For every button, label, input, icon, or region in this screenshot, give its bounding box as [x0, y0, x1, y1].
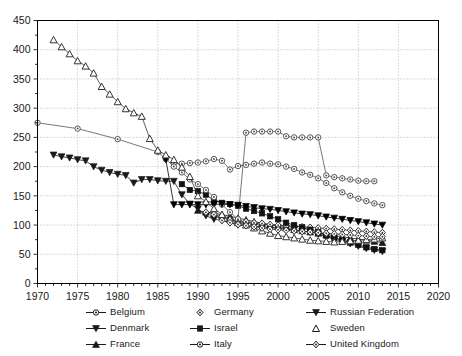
legend-item-france[interactable]: France [86, 339, 190, 349]
data-point-marker [324, 173, 329, 178]
data-point-marker [283, 164, 288, 169]
legend-item-italy[interactable]: Italy [190, 339, 306, 349]
chart-legend: BelgiumGermanyRussian FederationDenmarkI… [86, 304, 416, 352]
data-point-marker [130, 180, 137, 186]
legend-item-russian-federation[interactable]: Russian Federation [306, 307, 416, 317]
legend-item-label: Italy [214, 339, 232, 349]
legend-item-united-kingdom[interactable]: United Kingdom [306, 339, 416, 349]
data-point-marker [171, 164, 176, 169]
legend-marker-icon [306, 323, 326, 334]
x-tick-label: 1985 [146, 290, 170, 302]
data-point-marker [267, 214, 272, 219]
series-line [198, 210, 382, 242]
legend-item-belgium[interactable]: Belgium [86, 307, 190, 317]
data-point-marker [316, 176, 321, 181]
x-tick-label: 1980 [106, 290, 130, 302]
data-point-marker [275, 162, 280, 167]
data-point-marker [82, 158, 89, 164]
data-point-marker [50, 36, 57, 42]
chart-container: 1970197519801985199019952000200520102015… [0, 0, 462, 356]
legend-item-label: Denmark [110, 323, 149, 333]
data-point-marker [259, 129, 264, 134]
data-point-marker [98, 83, 105, 89]
data-point-marker [115, 136, 120, 141]
data-point-marker [235, 163, 240, 168]
data-point-marker [227, 167, 232, 172]
line-chart: 1970197519801985199019952000200520102015… [0, 0, 462, 356]
legend-marker [190, 339, 210, 349]
data-point-marker [356, 196, 361, 201]
data-point-marker [291, 135, 296, 140]
data-point-marker [138, 113, 145, 119]
data-point-marker [332, 174, 337, 179]
grid-lines [38, 21, 439, 284]
data-point-marker [197, 326, 202, 331]
y-tick-label: 50 [19, 248, 31, 260]
legend-marker [190, 307, 210, 317]
data-point-marker [299, 135, 304, 140]
data-point-marker [251, 129, 256, 134]
data-point-marker [340, 176, 345, 181]
legend-marker-icon [190, 339, 210, 350]
x-tick-label: 1995 [226, 290, 250, 302]
data-point-marker [82, 63, 89, 69]
data-point-marker [307, 135, 312, 140]
legend-marker-icon [86, 307, 106, 318]
data-point-marker [363, 233, 369, 240]
data-point-marker [211, 156, 216, 161]
data-point-marker [251, 161, 256, 166]
data-point-marker [275, 129, 280, 134]
data-point-marker [348, 177, 353, 182]
data-point-marker [313, 325, 320, 331]
y-tick-label: 350 [13, 73, 31, 85]
legend-item-germany[interactable]: Germany [190, 307, 306, 317]
legend-item-israel[interactable]: Israel [190, 323, 306, 333]
data-point-marker [364, 179, 369, 184]
data-point-marker [291, 166, 296, 171]
data-point-marker [364, 198, 369, 203]
y-tick-label: 450 [13, 14, 31, 26]
y-tick-label: 200 [13, 160, 31, 172]
legend-item-label: Belgium [110, 307, 145, 317]
data-point-marker [130, 109, 137, 115]
data-point-marker [348, 193, 353, 198]
legend-item-denmark[interactable]: Denmark [86, 323, 190, 333]
data-point-marker [219, 158, 224, 163]
data-point-marker [356, 178, 361, 183]
legend-marker [86, 323, 106, 333]
legend-marker [190, 323, 210, 333]
data-point-marker [316, 135, 321, 140]
data-point-marker [98, 167, 105, 173]
legend-item-sweden[interactable]: Sweden [306, 323, 416, 333]
legend-marker [306, 339, 326, 349]
legend-item-label: Russian Federation [330, 307, 414, 317]
data-point-marker [243, 162, 248, 167]
data-point-marker [372, 246, 377, 251]
data-point-marker [372, 201, 377, 206]
data-point-marker [380, 202, 385, 207]
data-point-marker [146, 135, 153, 141]
legend-marker-icon [86, 339, 106, 350]
data-point-marker [90, 164, 97, 170]
data-point-marker [170, 156, 177, 162]
legend-marker [306, 307, 326, 317]
data-point-marker [243, 130, 248, 135]
y-tick-label: 400 [13, 43, 31, 55]
data-point-marker [203, 187, 208, 192]
y-tick-label: 100 [13, 219, 31, 231]
series-united-kingdom [211, 211, 385, 240]
data-point-marker [195, 160, 200, 165]
data-point-marker [195, 181, 200, 186]
data-point-marker [267, 161, 272, 166]
data-point-marker [162, 152, 169, 158]
data-point-marker [187, 160, 192, 165]
x-tick-label: 2010 [347, 290, 371, 302]
data-point-marker [259, 160, 264, 165]
data-point-marker [283, 220, 288, 225]
data-point-marker [324, 180, 329, 185]
data-point-marker [267, 129, 272, 134]
x-tick-label: 2000 [266, 290, 290, 302]
y-tick-label: 250 [13, 131, 31, 143]
data-point-marker [380, 247, 385, 252]
data-point-marker [75, 126, 80, 131]
